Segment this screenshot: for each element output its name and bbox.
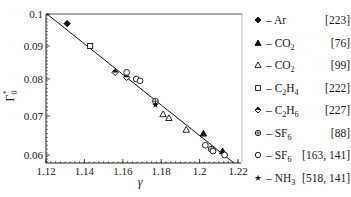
x-axis-label: γ xyxy=(138,175,143,189)
filled-triangle-icon xyxy=(252,37,264,49)
x-tick-label: 1.14 xyxy=(75,165,95,177)
legend-label: – Ar xyxy=(266,10,286,30)
chart-legend: – Ar[223]– CO2[76]– CO2[99]– C2H4[222]– … xyxy=(250,10,350,190)
open-square-icon xyxy=(252,82,264,94)
legend-item: – CO2[99] xyxy=(250,55,350,78)
legend-item: – Ar[223] xyxy=(250,10,350,33)
y-tick-label: 0.07 xyxy=(24,110,44,122)
open-circle-marker xyxy=(210,148,216,154)
x-tick-label: 1.22 xyxy=(228,165,247,177)
circle-plus-icon xyxy=(252,127,264,139)
legend-reference: [88] xyxy=(331,123,350,143)
legend-reference: [227] xyxy=(325,100,350,120)
legend-reference: [222] xyxy=(325,78,350,98)
legend-label: – CO2 xyxy=(266,33,295,58)
legend-reference: [518, 141] xyxy=(302,168,350,188)
filled-star-icon xyxy=(252,172,264,184)
legend-reference: [99] xyxy=(331,55,350,75)
half-filled-diamond-marker xyxy=(255,107,261,113)
y-tick-label: 0.08 xyxy=(24,73,44,85)
open-circle-icon xyxy=(252,149,264,161)
legend-reference: [76] xyxy=(331,33,350,53)
x-tick-label: 1.12 xyxy=(36,165,55,177)
filled-star-marker xyxy=(255,174,261,180)
half-filled-diamond-icon xyxy=(252,104,264,116)
open-circle-marker xyxy=(255,152,260,157)
legend-label: – CO2 xyxy=(266,55,295,80)
circle-plus-marker xyxy=(255,130,260,135)
y-tick-label: 0.06 xyxy=(24,149,44,161)
legend-item: – SF6[163, 141] xyxy=(250,145,350,168)
open-triangle-marker xyxy=(166,115,172,121)
legend-label: – SF6 xyxy=(266,123,291,148)
open-circle-marker xyxy=(137,78,143,84)
legend-label: – C2H4 xyxy=(266,78,299,103)
open-triangle-marker xyxy=(160,111,166,117)
legend-label: – SF6 xyxy=(266,145,291,170)
open-square-marker xyxy=(88,43,93,48)
filled-diamond-marker xyxy=(255,17,261,23)
open-circle-marker xyxy=(222,152,228,158)
open-circle-marker xyxy=(124,70,130,76)
y-axis-label: Γ0* xyxy=(2,91,19,102)
open-triangle-marker xyxy=(183,126,189,132)
legend-reference: [223] xyxy=(325,10,350,30)
filled-triangle-marker xyxy=(200,130,206,136)
legend-item: – SF6[88] xyxy=(250,123,350,146)
legend-item: – NH3[518, 141] xyxy=(250,168,350,191)
open-square-marker xyxy=(256,85,261,90)
filled-triangle-marker xyxy=(255,40,261,45)
y-tick-label: 0.09 xyxy=(24,40,44,52)
filled-diamond-marker xyxy=(64,20,70,26)
legend-reference: [163, 141] xyxy=(302,145,350,165)
filled-diamond-icon xyxy=(252,14,264,26)
legend-item: – CO2[76] xyxy=(250,33,350,56)
x-tick-label: 1.16 xyxy=(113,165,133,177)
data-points xyxy=(64,20,228,157)
legend-item: – C2H6[227] xyxy=(250,100,350,123)
x-tick-label: 1.18 xyxy=(152,165,172,177)
open-triangle-icon xyxy=(252,59,264,71)
open-circle-marker xyxy=(202,142,208,148)
open-triangle-marker xyxy=(255,62,261,67)
svg-text:Γ0*: Γ0* xyxy=(2,91,19,102)
legend-label: – C2H6 xyxy=(266,100,299,125)
x-tick-label: 1.2 xyxy=(193,165,207,177)
fit-line xyxy=(47,14,234,163)
legend-item: – C2H4[222] xyxy=(250,78,350,101)
legend-label: – NH3 xyxy=(266,168,295,193)
y-tick-label: 0.1 xyxy=(29,8,43,20)
